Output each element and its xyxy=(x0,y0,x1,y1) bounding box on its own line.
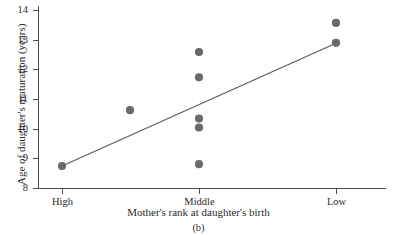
data-point xyxy=(195,115,203,123)
data-points-group xyxy=(58,19,340,170)
trend-line-group xyxy=(62,43,337,166)
data-point xyxy=(58,162,66,170)
data-point xyxy=(332,19,340,27)
y-axis-ticks xyxy=(33,11,39,189)
axes-group xyxy=(39,6,387,189)
data-point xyxy=(195,160,203,168)
scatter-plot-figure: 14 13 12 11 10 9 8 High Middle Low Mothe… xyxy=(0,0,397,235)
data-point xyxy=(126,106,134,114)
data-point xyxy=(195,73,203,81)
regression-line xyxy=(62,43,337,166)
x-axis-ticks xyxy=(63,189,337,195)
x-axis-title: Mother's rank at daughter's birth xyxy=(0,206,397,218)
data-point xyxy=(332,39,340,47)
data-point xyxy=(195,48,203,56)
y-tick-label-14: 14 xyxy=(6,5,28,16)
y-axis-title: Age of daughter's maturation (years) xyxy=(15,24,27,185)
panel-caption: (b) xyxy=(0,222,397,233)
data-point xyxy=(195,123,203,131)
